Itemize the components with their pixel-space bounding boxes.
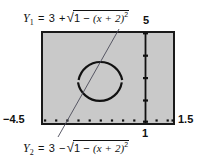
y1-radicand-minus: − <box>83 12 90 24</box>
y2-radicand-minus: − <box>83 142 90 154</box>
y1-equals: = <box>37 12 46 24</box>
calculator-screen <box>41 31 175 125</box>
y1-radicand-group: (x + 2) <box>93 12 124 24</box>
y2-radicand-group: (x + 2) <box>93 142 124 154</box>
x-max-label: 1.5 <box>178 113 193 125</box>
y1-radical: √1 − (x + 2)2 <box>67 10 130 24</box>
graphing-calculator-figure: Y1 = 3 +√1 − (x + 2)2 Y2 = 3 −√1 − (x + … <box>0 0 203 161</box>
y2-radicand-exponent: 2 <box>124 141 128 148</box>
y2-radicand: 1 − (x + 2)2 <box>73 140 129 154</box>
y-min-label: 1 <box>142 127 148 139</box>
y2-radicand-lead: 1 <box>74 142 80 154</box>
y1-operator: + <box>58 12 67 24</box>
y-max-label: 5 <box>143 14 149 26</box>
y2-radical: √1 − (x + 2)2 <box>67 140 130 154</box>
y2-equals: = <box>37 142 46 154</box>
x-min-label: −4.5 <box>3 113 25 125</box>
equation-label-y2: Y2 = 3 −√1 − (x + 2)2 <box>23 140 129 157</box>
y1-radicand-exponent: 2 <box>124 11 128 18</box>
y1-radicand: 1 − (x + 2)2 <box>73 10 129 24</box>
y2-constant: 3 <box>49 142 55 154</box>
y1-radicand-lead: 1 <box>74 12 80 24</box>
y1-constant: 3 <box>49 12 55 24</box>
y2-operator: − <box>58 142 67 154</box>
equation-label-y1: Y1 = 3 +√1 − (x + 2)2 <box>23 10 129 27</box>
y1-variable: Y1 <box>23 11 34 25</box>
y2-variable: Y2 <box>23 141 34 155</box>
